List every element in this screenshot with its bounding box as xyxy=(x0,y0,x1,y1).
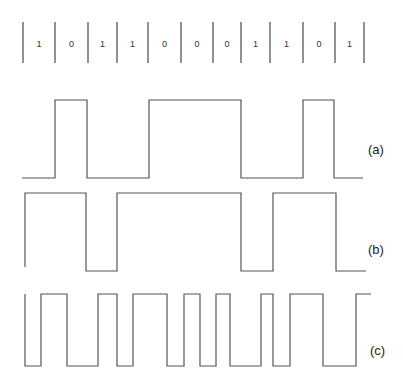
bit-value: 0 xyxy=(224,39,229,49)
waveform-c-path xyxy=(25,294,371,366)
bit-value: 0 xyxy=(316,39,321,49)
bit-value: 1 xyxy=(100,39,105,49)
line-coding-diagram: 10110001101 (a) (b) (c) xyxy=(0,0,403,384)
bit-value: 1 xyxy=(36,39,41,49)
bit-value: 1 xyxy=(253,39,258,49)
waveform-c-label: (c) xyxy=(370,343,385,358)
bit-value: 0 xyxy=(194,39,199,49)
waveform-c: (c) xyxy=(25,294,385,366)
bit-value: 0 xyxy=(162,39,167,49)
bit-value: 0 xyxy=(69,39,74,49)
waveform-b-label: (b) xyxy=(368,242,384,257)
waveform-a-label: (a) xyxy=(368,142,384,157)
waveform-b-path xyxy=(25,193,366,271)
bit-value: 1 xyxy=(130,39,135,49)
bit-value: 1 xyxy=(347,39,352,49)
bit-sequence-row: 10110001101 xyxy=(23,22,364,63)
waveform-b: (b) xyxy=(25,193,384,271)
waveform-a-path xyxy=(22,100,363,178)
waveform-a: (a) xyxy=(22,100,384,178)
bit-value: 1 xyxy=(284,39,289,49)
